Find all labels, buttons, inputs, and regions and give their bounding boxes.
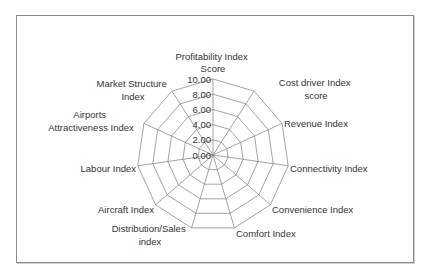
radial-tick-label: 4.00 — [193, 119, 212, 130]
radial-tick-label: 8.00 — [193, 89, 212, 100]
grid-spoke — [213, 155, 288, 166]
axis-label-convenience: Convenience Index — [272, 204, 354, 215]
radial-tick-label: 10.00 — [187, 74, 211, 85]
radar-grid — [138, 79, 288, 228]
radial-tick-label: 6.00 — [193, 104, 212, 115]
axis-label-labour: Labour Index — [81, 163, 137, 174]
axis-label-connectivity: Connectivity Index — [290, 163, 368, 174]
axis-label-distribution: Distribution/Sales index — [112, 223, 189, 247]
radial-tick-label: 2.00 — [193, 134, 212, 145]
axis-label-aircraft: Aircraft Index — [98, 204, 154, 215]
axis-label-market-structure: Market Structure Index — [97, 78, 170, 102]
axis-label-profitability: Profitability Index Score — [176, 51, 251, 74]
radial-tick-label: 0.00 — [193, 150, 212, 161]
axis-label-comfort: Comfort Index — [236, 228, 296, 239]
axis-label-cost-driver: Cost driver Index score — [279, 77, 353, 101]
radial-tick-labels: 0.002.004.006.008.0010.00 — [187, 74, 211, 161]
axis-label-airports: Airports Attractiveness Index — [48, 109, 134, 133]
radar-chart: 0.002.004.006.008.0010.00 Profitability … — [0, 0, 426, 277]
axis-label-revenue: Revenue Index — [284, 118, 348, 129]
